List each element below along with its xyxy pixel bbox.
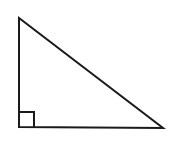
figure-container	[0, 0, 171, 149]
right-triangle-figure	[0, 0, 171, 149]
